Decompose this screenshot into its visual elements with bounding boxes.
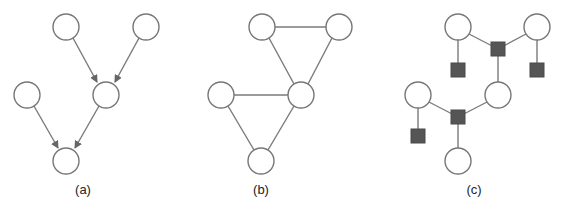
node-b3 <box>208 82 234 108</box>
caption-b: (b) <box>253 182 269 197</box>
node-c3 <box>405 82 431 108</box>
node-c1 <box>445 14 471 40</box>
node-b1 <box>249 14 275 40</box>
node-a3 <box>14 82 40 108</box>
panel-a-directed-graph: (a) <box>14 14 159 197</box>
factor-f5 <box>411 129 425 143</box>
edge-a1-a4 <box>73 38 97 82</box>
edge-a2-a4 <box>115 38 139 82</box>
node-b5 <box>248 148 274 174</box>
factor-f4 <box>451 110 465 124</box>
edge-b1-b4 <box>269 38 294 84</box>
edge-a4-a5 <box>75 106 99 148</box>
caption-a: (a) <box>75 182 91 197</box>
edge-b2-b4 <box>308 38 332 84</box>
node-c2 <box>524 14 550 40</box>
node-a1 <box>53 14 79 40</box>
factor-f3 <box>530 63 544 77</box>
panel-c-factor-graph: (c) <box>405 14 550 197</box>
node-a2 <box>133 14 159 40</box>
node-b4 <box>288 82 314 108</box>
node-a5 <box>53 148 79 174</box>
figure-canvas: (a) (b) (c) <box>0 0 562 202</box>
edge-a3-a5 <box>34 106 58 148</box>
caption-c: (c) <box>466 182 481 197</box>
edge-b3-b5 <box>228 106 254 150</box>
node-a4 <box>93 82 119 108</box>
panel-b-undirected-graph: (b) <box>208 14 352 197</box>
node-b2 <box>326 14 352 40</box>
factor-f2 <box>451 63 465 77</box>
node-c5 <box>445 148 471 174</box>
factor-f1 <box>491 42 505 56</box>
edge-b4-b5 <box>268 106 294 150</box>
node-c4 <box>485 82 511 108</box>
